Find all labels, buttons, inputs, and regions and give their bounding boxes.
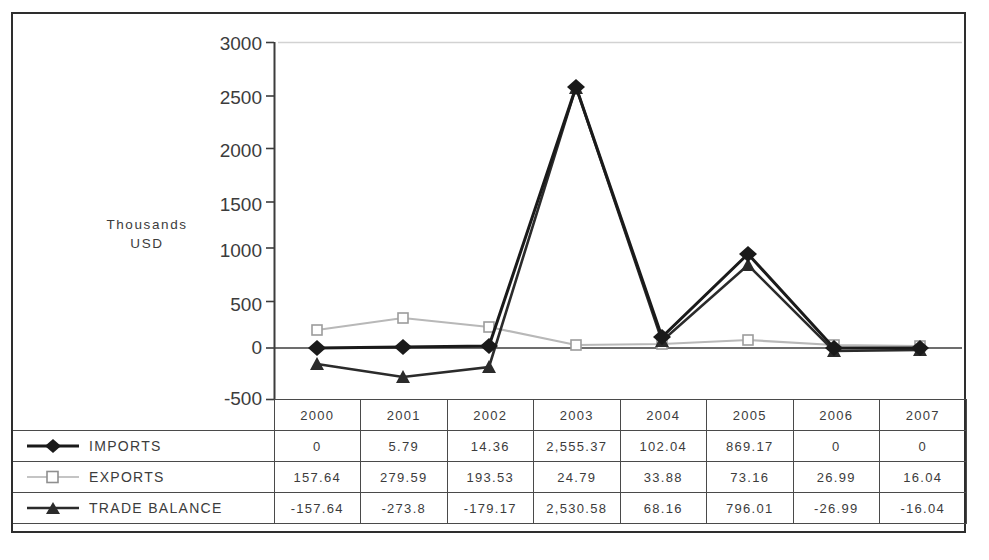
open-square-icon [27, 468, 79, 486]
column-header-2002: 2002 [447, 400, 534, 431]
legend-label-trade-balance: TRADE BALANCE [89, 500, 223, 516]
cell-imports-2007: 0 [880, 431, 967, 462]
legend-label-exports: EXPORTS [89, 469, 165, 485]
imports-line [317, 87, 920, 348]
cell-trade-balance-2007: -16.04 [880, 493, 967, 524]
legend-label-imports: IMPORTS [89, 438, 162, 454]
legend-item-exports: EXPORTS [13, 462, 274, 493]
cell-trade-balance-2004: 68.16 [620, 493, 707, 524]
cell-exports-2005: 73.16 [707, 462, 794, 493]
filled-triangle-icon [27, 499, 79, 517]
cell-exports-2003: 24.79 [534, 462, 621, 493]
table-header-blank [13, 400, 274, 431]
cell-exports-2002: 193.53 [447, 462, 534, 493]
cell-imports-2003: 2,555.37 [534, 431, 621, 462]
table-header-row: 2000 2001 2002 2003 2004 2005 2006 2007 [13, 400, 966, 431]
data-table: 2000 2001 2002 2003 2004 2005 2006 2007 … [13, 399, 967, 524]
table-row: TRADE BALANCE -157.64 -273.8 -179.17 2,5… [13, 493, 966, 524]
column-header-2004: 2004 [620, 400, 707, 431]
column-header-2005: 2005 [707, 400, 794, 431]
column-header-2003: 2003 [534, 400, 621, 431]
cell-exports-2006: 26.99 [793, 462, 880, 493]
y-axis-ticks [266, 43, 274, 400]
legend-item-trade-balance: TRADE BALANCE [13, 493, 274, 524]
cell-trade-balance-2006: -26.99 [793, 493, 880, 524]
cell-exports-2004: 33.88 [620, 462, 707, 493]
cell-imports-2005: 869.17 [707, 431, 794, 462]
cell-trade-balance-2001: -273.8 [361, 493, 448, 524]
cell-trade-balance-2002: -179.17 [447, 493, 534, 524]
cell-imports-2006: 0 [793, 431, 880, 462]
table-row: IMPORTS 0 5.79 14.36 2,555.37 102.04 869… [13, 431, 966, 462]
cell-trade-balance-2005: 796.01 [707, 493, 794, 524]
cell-trade-balance-2000: -157.64 [274, 493, 361, 524]
cell-exports-2000: 157.64 [274, 462, 361, 493]
cell-imports-2001: 5.79 [361, 431, 448, 462]
cell-imports-2002: 14.36 [447, 431, 534, 462]
trade-balance-line [317, 87, 920, 377]
column-header-2000: 2000 [274, 400, 361, 431]
column-header-2006: 2006 [793, 400, 880, 431]
cell-imports-2000: 0 [274, 431, 361, 462]
table-row: EXPORTS 157.64 279.59 193.53 24.79 33.88… [13, 462, 966, 493]
column-header-2001: 2001 [361, 400, 448, 431]
chart-root: 3000 2500 2000 1500 1000 500 0 -500 Thou… [0, 0, 989, 560]
cell-exports-2001: 279.59 [361, 462, 448, 493]
series-trade-balance [310, 81, 927, 383]
trade-balance-markers [310, 81, 927, 383]
cell-exports-2007: 16.04 [880, 462, 967, 493]
cell-trade-balance-2003: 2,530.58 [534, 493, 621, 524]
filled-diamond-icon [27, 437, 79, 455]
column-header-2007: 2007 [880, 400, 967, 431]
cell-imports-2004: 102.04 [620, 431, 707, 462]
legend-item-imports: IMPORTS [13, 431, 274, 462]
